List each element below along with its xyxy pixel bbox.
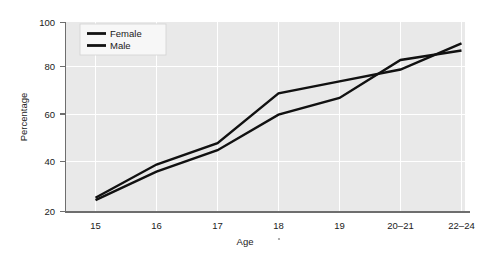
x-tick-label-18: 18 <box>273 220 284 231</box>
x-tick-label-15: 15 <box>90 220 101 231</box>
chart-figure: 100 80 60 40 20 Percentage 15 16 17 18 1… <box>0 0 483 261</box>
x-tick-label-17: 17 <box>212 220 223 231</box>
legend-label-female: Female <box>110 28 142 39</box>
stray-dot-artifact <box>278 238 280 240</box>
x-tick-label-19: 19 <box>334 220 345 231</box>
y-tick-label-100: 100 <box>39 17 55 28</box>
x-axis-title: Age <box>237 236 254 247</box>
y-tick-label-40: 40 <box>44 156 55 167</box>
y-tick-label-80: 80 <box>44 61 55 72</box>
legend-label-male: Male <box>110 40 131 51</box>
y-tick-label-20: 20 <box>44 206 55 217</box>
x-tick-label-16: 16 <box>151 220 162 231</box>
y-axis-title: Percentage <box>18 93 29 142</box>
line-chart-svg: 100 80 60 40 20 Percentage 15 16 17 18 1… <box>0 0 483 261</box>
y-tick-label-60: 60 <box>44 109 55 120</box>
chart-legend: Female Male <box>80 24 166 55</box>
x-tick-label-20-21: 20–21 <box>387 220 413 231</box>
x-tick-label-22-24: 22–24 <box>448 220 474 231</box>
y-axis-ticks <box>60 23 65 212</box>
